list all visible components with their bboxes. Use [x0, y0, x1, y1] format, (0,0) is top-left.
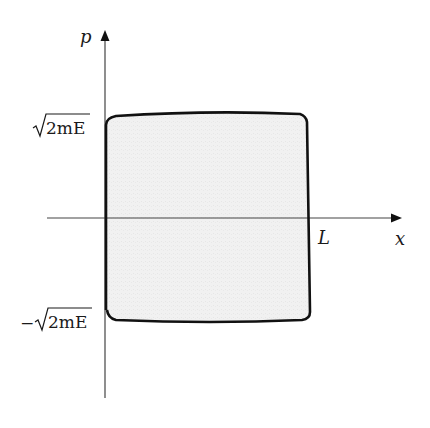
phase-space-region — [106, 112, 310, 322]
p-tick-bottom: − 2mE — [20, 308, 92, 333]
p-axis-arrow-icon — [101, 30, 110, 41]
phase-space-diagram: p x L 2mE − 2mE — [0, 0, 430, 428]
svg-text:−: − — [20, 313, 34, 333]
x-axis-arrow-icon — [391, 214, 402, 223]
x-axis-label: x — [395, 228, 405, 249]
p-tick-top: 2mE — [33, 114, 90, 138]
x-tick-label-L: L — [317, 227, 330, 248]
p-tick-bottom-radicand: 2mE — [48, 312, 87, 332]
p-tick-bottom-sign: − — [20, 313, 34, 333]
svg-text:2mE: 2mE — [48, 312, 87, 332]
svg-text:2mE: 2mE — [46, 118, 85, 138]
p-axis-label: p — [80, 26, 92, 47]
p-tick-top-radicand: 2mE — [46, 118, 85, 138]
